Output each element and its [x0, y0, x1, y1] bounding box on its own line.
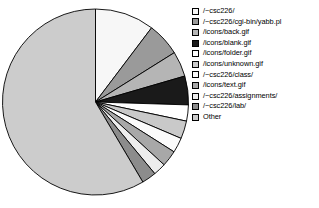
legend-item: /~csc226/class/: [192, 70, 319, 81]
legend-item-label: /icons/folder.gif: [203, 48, 251, 59]
pie-chart-canvas: [0, 0, 190, 208]
pie-chart-figure: /~csc226//~csc226/cgi-bin/yabb.pl/icons/…: [0, 0, 319, 208]
legend-item-label: /~csc226/assignments/: [203, 91, 277, 102]
legend-item-label: /icons/unknown.gif: [203, 59, 263, 70]
legend-item: Other: [192, 112, 319, 123]
legend-swatch-icon: [192, 61, 199, 68]
legend-item: /icons/blank.gif: [192, 38, 319, 49]
legend-item-label: /~csc226/class/: [203, 70, 253, 81]
legend-swatch-icon: [192, 82, 199, 89]
legend-item-label: /~csc226/: [203, 6, 234, 17]
legend-item: /~csc226/lab/: [192, 101, 319, 112]
legend-swatch-icon: [192, 50, 199, 57]
legend-item: /icons/back.gif: [192, 27, 319, 38]
legend-swatch-icon: [192, 103, 199, 110]
legend-item-label: /icons/back.gif: [203, 27, 249, 38]
legend-swatch-icon: [192, 18, 199, 25]
legend-item: /icons/text.gif: [192, 80, 319, 91]
legend-item: /~csc226/: [192, 6, 319, 17]
legend-swatch-icon: [192, 29, 199, 36]
legend-item: /~csc226/assignments/: [192, 91, 319, 102]
legend-item-label: /icons/blank.gif: [203, 38, 251, 49]
chart-legend: /~csc226//~csc226/cgi-bin/yabb.pl/icons/…: [192, 6, 319, 123]
legend-swatch-icon: [192, 40, 199, 47]
legend-swatch-icon: [192, 71, 199, 78]
legend-item-label: /~csc226/cgi-bin/yabb.pl: [203, 17, 281, 28]
legend-item-label: /~csc226/lab/: [203, 101, 246, 112]
legend-swatch-icon: [192, 114, 199, 121]
legend-swatch-icon: [192, 8, 199, 15]
legend-swatch-icon: [192, 93, 199, 100]
legend-item: /~csc226/cgi-bin/yabb.pl: [192, 17, 319, 28]
legend-item: /icons/unknown.gif: [192, 59, 319, 70]
legend-item: /icons/folder.gif: [192, 48, 319, 59]
legend-item-label: /icons/text.gif: [203, 80, 245, 91]
legend-item-label: Other: [203, 112, 221, 123]
pie-slice-group: [3, 9, 189, 195]
